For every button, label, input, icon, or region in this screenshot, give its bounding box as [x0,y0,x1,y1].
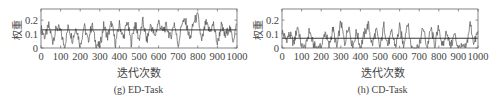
x-tick-label: 200 [72,51,88,62]
x-tick-label: 600 [151,51,167,62]
y-axis-label: 权重 [9,20,24,40]
x-tick-label: 800 [190,51,206,62]
y-tick-label: 0.1 [25,29,38,40]
chart-panel-cd-task: 0100200300400500600700800900100000.10.2 … [250,0,499,107]
y-tick-label: 0 [274,43,279,54]
x-tick-label: 1000 [227,51,248,62]
x-tick-label: 900 [210,51,226,62]
x-tick-label: 700 [170,51,186,62]
x-tick-label: 500 [131,51,147,62]
y-tick-label: 0 [33,43,38,54]
x-tick-label: 600 [392,51,408,62]
x-tick-label: 0 [279,51,284,62]
x-tick-label: 300 [333,51,349,62]
data-series-line [282,21,478,48]
plot-frame [41,9,237,48]
x-tick-label: 400 [353,51,369,62]
x-tick-label: 900 [451,51,467,62]
x-tick-label: 700 [411,51,427,62]
y-axis-label: 权重 [250,20,265,40]
x-tick-label: 100 [53,51,69,62]
x-axis-label: 迭代次数 [14,64,263,80]
x-tick-label: 200 [313,51,329,62]
x-tick-label: 300 [92,51,108,62]
chart-caption: (g) ED-Task [14,84,263,95]
x-tick-label: 500 [372,51,388,62]
chart-caption: (h) CD-Task [258,84,499,95]
x-axis-label: 迭代次数 [258,64,499,80]
x-tick-label: 1000 [468,51,489,62]
x-tick-label: 0 [38,51,43,62]
y-tick-label: 0.2 [25,15,38,26]
y-tick-label: 0.1 [266,29,279,40]
x-tick-label: 400 [112,51,128,62]
y-tick-label: 0.2 [266,15,279,26]
x-tick-label: 100 [294,51,310,62]
chart-panel-ed-task: 0100200300400500600700800900100000.10.2 … [0,0,249,107]
x-tick-label: 800 [431,51,447,62]
plot-frame [282,9,478,48]
